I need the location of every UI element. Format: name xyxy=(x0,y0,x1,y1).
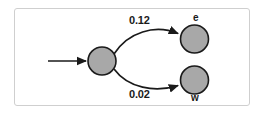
edge-start-to-e xyxy=(114,30,178,54)
diagram-canvas: 0.12 0.02 e w xyxy=(0,0,266,119)
node-start[interactable] xyxy=(88,47,116,75)
edge-start-to-w xyxy=(114,69,178,89)
edge-label-start-to-w: 0.02 xyxy=(129,89,150,100)
node-e[interactable] xyxy=(181,25,209,53)
node-label-w: w xyxy=(191,93,199,103)
node-w[interactable] xyxy=(181,66,209,94)
edge-label-start-to-e: 0.12 xyxy=(129,15,150,26)
node-label-e: e xyxy=(193,13,199,23)
